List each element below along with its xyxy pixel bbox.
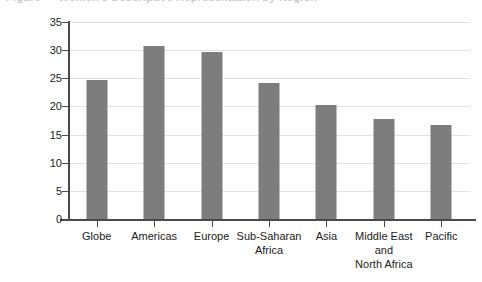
gridline xyxy=(68,78,470,79)
y-axis-tick-label: 30 xyxy=(20,44,62,56)
y-axis-tick xyxy=(62,135,69,136)
y-axis-tick xyxy=(62,191,69,192)
y-axis-tick xyxy=(62,163,69,164)
y-axis-tick-label: 5 xyxy=(20,185,62,197)
bar xyxy=(373,119,394,219)
gridline xyxy=(68,22,470,23)
bar xyxy=(144,46,165,219)
x-axis-tick xyxy=(441,221,442,227)
x-axis-label: Pacific xyxy=(386,230,482,244)
bar xyxy=(431,125,452,219)
x-axis-tick xyxy=(384,221,385,227)
x-axis-tick xyxy=(97,221,98,227)
bar xyxy=(316,105,337,219)
y-axis-tick xyxy=(62,78,69,79)
bar-chart-figure: Figure — Women's Descriptive Representat… xyxy=(0,0,482,282)
y-axis-tick xyxy=(62,22,69,23)
y-axis-tick-label: 25 xyxy=(20,72,62,84)
x-axis-label-line: Pacific xyxy=(386,230,482,244)
y-axis-tick-label: 20 xyxy=(20,100,62,112)
bar xyxy=(201,52,222,219)
y-axis-tick xyxy=(62,219,69,220)
y-axis-tick-label: 35 xyxy=(20,16,62,28)
x-axis-tick xyxy=(154,221,155,227)
x-axis-tick xyxy=(269,221,270,227)
x-axis-tick xyxy=(326,221,327,227)
y-axis-tick xyxy=(62,106,69,107)
bar xyxy=(86,80,107,219)
bar xyxy=(259,83,280,219)
x-axis-label-line: and xyxy=(329,244,439,258)
y-axis-tick-label: 0 xyxy=(20,213,62,225)
y-axis-tick-label: 10 xyxy=(20,157,62,169)
x-axis-label-line: North Africa xyxy=(329,258,439,272)
y-axis-tick-label: 15 xyxy=(20,129,62,141)
x-axis-label-line: Africa xyxy=(214,244,324,258)
x-axis-tick xyxy=(212,221,213,227)
clipped-figure-title: Figure — Women's Descriptive Representat… xyxy=(0,0,482,3)
y-axis-tick xyxy=(62,50,69,51)
x-axis-line xyxy=(60,219,476,221)
gridline xyxy=(68,50,470,51)
